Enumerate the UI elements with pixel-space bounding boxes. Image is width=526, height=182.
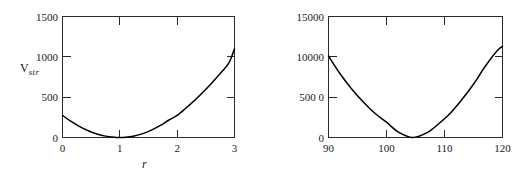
y-tick-label-500: 500 — [42, 91, 59, 103]
y-tick-label-1000: 1000 — [36, 51, 59, 63]
x-tick-label-0: 0 — [60, 142, 66, 154]
y-axis-title-subscript: str — [29, 67, 40, 77]
y-tick-label-10000: 10000 — [297, 51, 325, 63]
y-axis-title-vstr: Vstr — [20, 62, 39, 77]
stretching-plot-canvas: 1500 1000 500 0 0 1 2 3 — [0, 0, 263, 182]
y-tick-label-5000: 500 0 — [299, 91, 324, 103]
x-tick-label-100: 100 — [378, 142, 395, 154]
bending-potential-panel: 15000 10000 500 0 0 90 100 110 120 Vb en… — [263, 0, 526, 182]
x-tick-label-2: 2 — [174, 142, 180, 154]
dual-potential-energy-figure: 1500 1000 500 0 0 1 2 3 Vstr r — [0, 0, 526, 182]
y-axis-title-main: V — [20, 61, 29, 75]
x-tick-label-3: 3 — [232, 142, 238, 154]
y-tick-label-15000: 15000 — [297, 11, 325, 23]
y-tick-label-0: 0 — [53, 132, 59, 144]
x-tick-label-110: 110 — [436, 142, 453, 154]
y-axis-ticks-mirror — [227, 57, 235, 97]
x-tick-label-1: 1 — [117, 142, 123, 154]
y-tick-label-1500: 1500 — [36, 11, 59, 23]
stretching-potential-panel: 1500 1000 500 0 0 1 2 3 Vstr r — [0, 0, 263, 182]
x-axis-title-r: r — [142, 157, 147, 172]
stretching-potential-curve — [63, 49, 235, 138]
x-axis-ticks-mirror — [120, 17, 177, 25]
bending-potential-curve — [329, 46, 503, 137]
x-axis-ticks-mirror — [387, 17, 445, 25]
plot-frame — [329, 17, 503, 138]
plot-frame — [63, 17, 235, 138]
x-tick-label-90: 90 — [323, 142, 335, 154]
x-axis-ticks — [329, 130, 503, 138]
y-axis-ticks-mirror — [495, 57, 503, 97]
y-axis-ticks — [329, 17, 337, 138]
bending-plot-canvas: 15000 10000 500 0 0 90 100 110 120 — [263, 0, 526, 182]
x-tick-label-120: 120 — [494, 142, 511, 154]
